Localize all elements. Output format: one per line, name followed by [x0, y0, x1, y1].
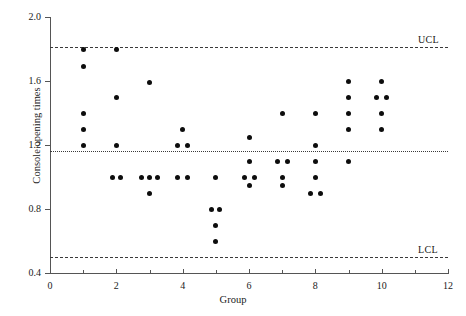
- x-tick-mark: [183, 269, 184, 274]
- data-point: [346, 79, 351, 84]
- data-point: [147, 191, 152, 196]
- y-tick-mark: [45, 17, 50, 18]
- data-point: [185, 143, 190, 148]
- x-tick-label: 12: [433, 280, 463, 291]
- data-point: [379, 127, 384, 132]
- data-point: [118, 175, 123, 180]
- data-point: [175, 175, 180, 180]
- data-point: [313, 111, 318, 116]
- data-point: [313, 175, 318, 180]
- data-point: [280, 111, 285, 116]
- x-tick-mark: [116, 269, 117, 274]
- x-minor-tick-mark: [83, 270, 84, 273]
- data-point: [379, 79, 384, 84]
- data-point: [280, 175, 285, 180]
- y-axis-line: [50, 17, 51, 273]
- data-point: [308, 191, 313, 196]
- x-tick-label: 2: [101, 280, 131, 291]
- data-point: [252, 175, 257, 180]
- data-point: [209, 207, 214, 212]
- plot-area: [50, 17, 448, 273]
- y-tick-label: 2.0: [15, 11, 41, 22]
- x-minor-tick-mark: [150, 270, 151, 273]
- data-point: [242, 175, 247, 180]
- data-point: [379, 111, 384, 116]
- y-tick-mark: [45, 145, 50, 146]
- limit-label-lcl: LCL: [418, 244, 438, 255]
- data-point: [114, 47, 119, 52]
- y-tick-mark: [45, 81, 50, 82]
- data-point: [374, 95, 379, 100]
- x-tick-mark: [315, 269, 316, 274]
- data-point: [81, 64, 86, 69]
- data-point: [213, 175, 218, 180]
- data-point: [285, 159, 290, 164]
- limit-line-lcl: [50, 257, 448, 258]
- y-tick-label: 0.4: [15, 267, 41, 278]
- data-point: [318, 191, 323, 196]
- y-tick-mark: [45, 273, 50, 274]
- x-tick-mark: [249, 269, 250, 274]
- x-axis-title: Group: [0, 294, 466, 305]
- limit-line-ucl: [50, 47, 448, 48]
- data-point: [346, 127, 351, 132]
- data-point: [155, 175, 160, 180]
- data-point: [346, 159, 351, 164]
- data-point: [217, 207, 222, 212]
- data-point: [213, 223, 218, 228]
- control-chart: 0.40.81.21.62.0 024681012 UCLLCL Group C…: [0, 0, 466, 316]
- data-point: [180, 127, 185, 132]
- data-point: [139, 175, 144, 180]
- x-tick-mark: [448, 269, 449, 274]
- x-tick-mark: [382, 269, 383, 274]
- data-point: [110, 175, 115, 180]
- x-tick-label: 8: [300, 280, 330, 291]
- data-point: [247, 159, 252, 164]
- data-point: [346, 95, 351, 100]
- data-point: [81, 143, 86, 148]
- data-point: [313, 159, 318, 164]
- data-point: [185, 175, 190, 180]
- data-point: [313, 143, 318, 148]
- data-point: [247, 183, 252, 188]
- data-point: [346, 111, 351, 116]
- data-point: [247, 135, 252, 140]
- data-point: [114, 95, 119, 100]
- data-point: [275, 159, 280, 164]
- y-axis-title: Console opening times: [31, 56, 42, 216]
- data-point: [213, 239, 218, 244]
- x-minor-tick-mark: [415, 270, 416, 273]
- limit-label-ucl: UCL: [418, 34, 439, 45]
- data-point: [81, 111, 86, 116]
- x-minor-tick-mark: [216, 270, 217, 273]
- data-point: [175, 143, 180, 148]
- x-tick-label: 6: [234, 280, 264, 291]
- y-tick-mark: [45, 209, 50, 210]
- data-point: [81, 47, 86, 52]
- x-tick-label: 4: [168, 280, 198, 291]
- data-point: [147, 175, 152, 180]
- data-point: [280, 183, 285, 188]
- limit-line-cl: [50, 151, 448, 152]
- x-minor-tick-mark: [282, 270, 283, 273]
- x-tick-label: 10: [367, 280, 397, 291]
- x-tick-label: 0: [35, 280, 65, 291]
- data-point: [384, 95, 389, 100]
- x-minor-tick-mark: [349, 270, 350, 273]
- data-point: [114, 143, 119, 148]
- data-point: [81, 127, 86, 132]
